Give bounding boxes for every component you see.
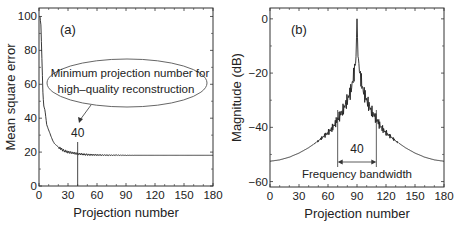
y-tick-label: 20 [24,146,37,158]
annotation-text-line-1: Minimum projection number for [51,67,210,79]
y-tick-label: 40 [24,112,37,124]
x-tick-label: 0 [267,190,273,202]
x-tick-label: 60 [322,190,335,202]
y-tick-label: 0 [262,13,268,25]
y-tick-label: 60 [24,78,37,90]
x-tick-label: 150 [174,189,193,201]
annotation-arrow [80,105,91,120]
panel-label: (a) [60,22,76,37]
bandwidth-value-label: 40 [350,142,364,156]
panel-b: 03060901201501800−20−40−60Projection num… [229,8,454,221]
figure: 0306090120150180020406080100Projection n… [0,0,461,229]
y-axis-label: Magnitude (dB) [229,53,244,142]
x-tick-label: 120 [145,189,164,201]
y-tick-label: −40 [248,121,268,133]
bandwidth-arrowhead-right [371,160,376,165]
marker-label-40: 40 [71,126,85,140]
y-axis-label: Mean square error [3,43,18,151]
x-tick-label: 120 [376,190,395,202]
x-tick-label: 60 [91,189,104,201]
y-tick-label: 100 [18,10,37,22]
x-tick-label: 30 [293,190,306,202]
y-tick-label: 80 [24,44,37,56]
x-tick-label: 150 [405,190,424,202]
annotation-text-line-2: high–quality reconstruction [58,83,195,95]
panel-label: (b) [291,22,307,37]
x-axis-label: Projection number [73,205,179,220]
panel-a: 0306090120150180020406080100Projection n… [3,8,223,220]
y-tick-label: −60 [248,176,268,188]
series-line-magnitude [270,19,444,161]
annotation-arrowhead [78,117,83,123]
x-tick-label: 90 [351,190,364,202]
x-tick-label: 90 [120,189,133,201]
x-axis-label: Projection number [304,206,410,221]
y-tick-label: −20 [248,67,268,79]
x-tick-label: 30 [62,189,75,201]
bandwidth-arrowhead-left [338,160,343,165]
y-tick-label: 0 [31,180,37,192]
x-tick-label: 180 [434,190,453,202]
x-tick-label: 180 [203,189,222,201]
bandwidth-caption: Frequency bandwidth [302,168,412,180]
